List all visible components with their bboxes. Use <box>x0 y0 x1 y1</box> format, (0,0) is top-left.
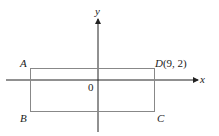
x-axis-label: x <box>200 74 205 85</box>
vertex-c-label: C <box>157 113 164 124</box>
vertex-d-coords: (9, 2) <box>163 57 187 69</box>
vertex-a-label: A <box>20 58 27 69</box>
vertex-d-letter: D <box>155 57 163 69</box>
vertex-d-label: D(9, 2) <box>155 58 187 69</box>
y-axis-label: y <box>95 6 100 17</box>
vertex-b-label: B <box>20 113 27 124</box>
origin-label: 0 <box>88 82 94 93</box>
